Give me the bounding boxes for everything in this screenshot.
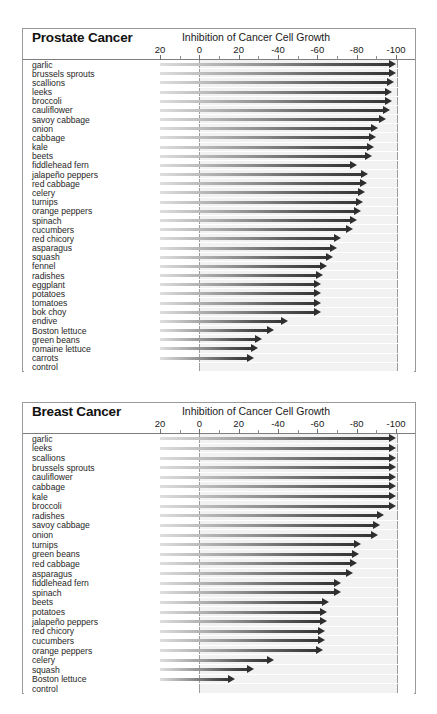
panel-title: Breast Cancer (32, 404, 121, 419)
bar (160, 476, 390, 479)
bar-row: potatoes (23, 289, 415, 298)
bar-row-label: beets (32, 598, 53, 608)
bar (160, 155, 366, 158)
bar-row: cucumbers (23, 636, 415, 646)
bar-row-label: red cabbage (32, 559, 80, 569)
bar-arrowhead (314, 308, 321, 316)
bar-row: Boston lettuce (23, 326, 415, 335)
bar-row-label: red chicory (32, 627, 74, 637)
bar-row: savoy cabbage (23, 521, 415, 531)
bar-row: broccoli (23, 501, 415, 511)
x-axis-tick-label: -40 (271, 44, 285, 55)
x-axis-tick-label: -80 (350, 44, 364, 55)
bar-row-label: turnips (32, 540, 58, 550)
bar (160, 639, 319, 642)
bar-arrowhead (320, 608, 327, 616)
bar (160, 320, 282, 323)
bar (160, 514, 378, 517)
bar-row: fiddlehead fern (23, 578, 415, 588)
bar-arrowhead (281, 317, 288, 325)
bar (160, 237, 335, 240)
bar-row: garlic (23, 434, 415, 444)
bar-row: green beans (23, 550, 415, 560)
bar-arrowhead (320, 617, 327, 625)
bar-row-label: fiddlehead fern (32, 578, 89, 588)
bar-row-label: garlic (32, 434, 53, 444)
bar-arrowhead (389, 60, 396, 68)
bar-row-label: potatoes (32, 607, 65, 617)
bar (160, 347, 252, 350)
bar (160, 173, 362, 176)
panel-title: Prostate Cancer (32, 30, 133, 45)
bar-row: celery (23, 655, 415, 665)
bar-row: tomatoes (23, 298, 415, 307)
bar (160, 466, 390, 469)
bar-row-label: leeks (32, 444, 52, 454)
bar-arrowhead (267, 656, 274, 664)
bar (160, 302, 315, 305)
bar-row: cauliflower (23, 473, 415, 483)
bar-row: spinach (23, 588, 415, 598)
bar (160, 495, 390, 498)
bar-row-label: cabbage (32, 482, 65, 492)
bar-arrowhead (358, 188, 365, 196)
bar-arrowhead (267, 326, 274, 334)
bar-arrowhead (389, 473, 396, 481)
bar-row-label: radishes (32, 511, 64, 521)
bar-arrowhead (389, 463, 396, 471)
bar (160, 146, 368, 149)
bar-row: asparagus (23, 569, 415, 579)
bar-rows: garlicleeksscallionsbrussels sproutscaul… (23, 434, 415, 694)
bar-arrowhead (316, 646, 323, 654)
bar-row: control (23, 684, 415, 694)
bar-row-label: brussels sprouts (32, 463, 95, 473)
bar (160, 247, 331, 250)
bar-row: red cabbage (23, 559, 415, 569)
bar-arrowhead (389, 502, 396, 510)
bar-row: jalapeño peppers (23, 617, 415, 627)
bar-arrowhead (379, 115, 386, 123)
bar-row: red chicory (23, 627, 415, 637)
bar-row: kale (23, 492, 415, 502)
panel-header: Breast Cancer Inhibition of Cancer Cell … (23, 403, 415, 434)
bar-row-label: cucumbers (32, 636, 74, 646)
axis-title: Inhibition of Cancer Cell Growth (131, 405, 381, 417)
bar (160, 447, 390, 450)
bar-row-label: spinach (32, 588, 62, 598)
bar-arrowhead (367, 143, 374, 151)
bar-arrowhead (314, 289, 321, 297)
bar (160, 620, 321, 623)
bar-arrowhead (255, 335, 262, 343)
x-axis-tick-label: 0 (197, 44, 202, 55)
bar-arrowhead (350, 161, 357, 169)
bar (160, 611, 321, 614)
x-axis-tick-label: -100 (386, 44, 405, 55)
bar-arrowhead (320, 262, 327, 270)
bar (160, 63, 390, 66)
bar-row: Boston lettuce (23, 675, 415, 685)
bar (160, 100, 386, 103)
bar (160, 572, 347, 575)
bar-row: brussels sprouts (23, 463, 415, 473)
bar-row-label: green beans (32, 550, 80, 560)
bar-row: onion (23, 530, 415, 540)
bar-row: bok choy (23, 308, 415, 317)
bar (160, 228, 347, 231)
bar-row: leeks (23, 88, 415, 97)
bar (160, 72, 390, 75)
bar (160, 437, 390, 440)
bar-arrowhead (350, 559, 357, 567)
bar (160, 338, 256, 341)
bar-arrowhead (385, 88, 392, 96)
bar-arrowhead (371, 124, 378, 132)
bar-row-label: broccoli (32, 501, 62, 511)
bar (160, 136, 370, 139)
bar-arrowhead (352, 550, 359, 558)
bar (160, 553, 353, 556)
bar-arrowhead (389, 444, 396, 452)
bar (160, 118, 380, 121)
bar (160, 292, 315, 295)
bar-arrowhead (346, 569, 353, 577)
bar-arrowhead (330, 244, 337, 252)
bar-row: celery (23, 188, 415, 197)
